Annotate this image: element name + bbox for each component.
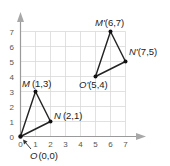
svg-text:1: 1 (10, 118, 15, 127)
label-o-prime: O'(5,4) (79, 79, 108, 90)
point-m (34, 90, 38, 94)
label-m-prime: M'(6,7) (95, 17, 124, 28)
label-m: M(1,3) (22, 78, 51, 89)
svg-text:4: 4 (10, 73, 15, 82)
svg-text:4: 4 (78, 140, 83, 149)
svg-text:1: 1 (33, 140, 38, 149)
svg-text:3: 3 (10, 88, 15, 97)
point-o-prime (94, 75, 98, 79)
label-o: O(0,0) (30, 150, 58, 161)
x-tick-labels: 0 1 2 3 4 5 6 7 (18, 140, 128, 149)
point-n-prime (124, 60, 128, 64)
point-o (18, 134, 22, 138)
x-axis-arrow-icon (136, 133, 146, 140)
label-n-prime: N'(7,5) (129, 46, 157, 57)
svg-text:6: 6 (108, 140, 113, 149)
svg-text:3: 3 (63, 140, 68, 149)
point-m-prime (109, 30, 113, 34)
svg-text:5: 5 (10, 58, 15, 67)
coordinate-plane: 0 1 2 3 4 5 6 7 0 1 2 3 4 5 6 7 (0, 0, 170, 166)
svg-text:2: 2 (48, 140, 53, 149)
label-n: N(2,1) (54, 110, 82, 121)
y-axis-arrow-icon (17, 12, 24, 22)
y-tick-labels: 0 1 2 3 4 5 6 7 (10, 28, 15, 142)
svg-text:0: 0 (10, 133, 15, 142)
svg-text:7: 7 (10, 28, 15, 37)
svg-text:7: 7 (123, 140, 128, 149)
svg-text:6: 6 (10, 43, 15, 52)
svg-text:2: 2 (10, 103, 15, 112)
coordinate-plane-figure: 0 1 2 3 4 5 6 7 0 1 2 3 4 5 6 7 (0, 0, 170, 166)
svg-text:5: 5 (93, 140, 98, 149)
origin-pointer-arrow-icon (23, 140, 31, 150)
point-n (49, 120, 53, 124)
svg-text:0: 0 (18, 140, 23, 149)
